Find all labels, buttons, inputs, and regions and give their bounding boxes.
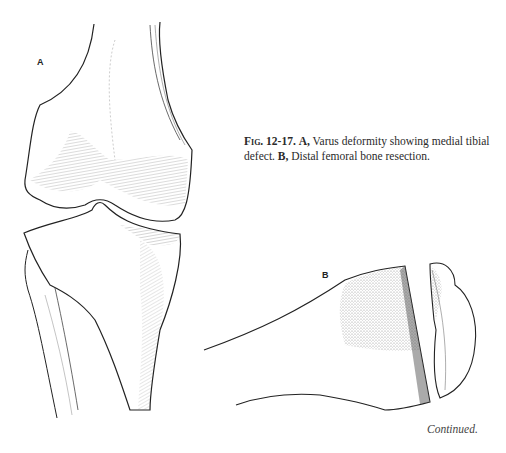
- panel-a-label: A: [37, 57, 44, 67]
- illustration-panel-b-femoral-resection: [204, 263, 476, 410]
- femur-drawing: [25, 22, 192, 221]
- caption-part-b-text: Distal femoral bone resection.: [291, 150, 430, 162]
- figure-caption: Fig. 12-17. A, Varus deformity showing m…: [244, 134, 506, 164]
- caption-part-b-label: B,: [278, 150, 289, 162]
- continued-note: Continued.: [427, 423, 478, 435]
- tibia-drawing: [24, 203, 180, 418]
- figure-number: Fig. 12-17.: [244, 135, 296, 147]
- illustration-panel-a-knee: [0, 0, 506, 453]
- caption-part-a-label: A,: [299, 135, 310, 147]
- panel-b-label: B: [322, 270, 329, 280]
